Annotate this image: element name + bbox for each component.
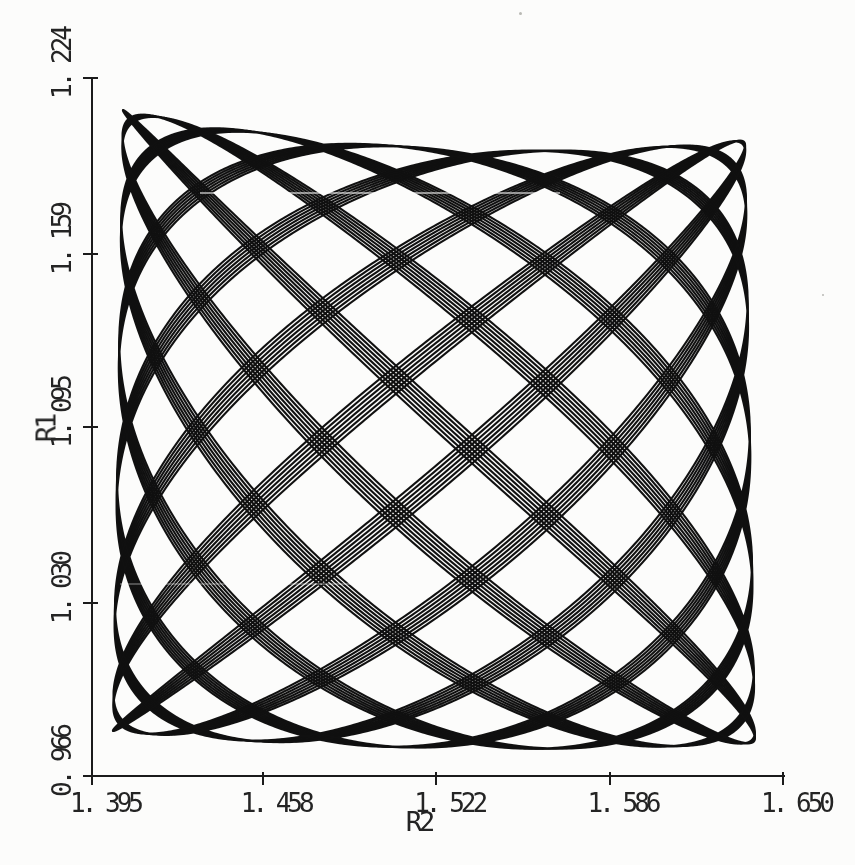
y-axis-title: R1 <box>33 416 60 443</box>
x-tick-label: 1. 395 <box>70 790 140 816</box>
y-tick-label: 1. 224 <box>49 29 75 99</box>
x-tick-label: 1. 586 <box>588 790 658 816</box>
x-axis-title: R2 <box>406 808 433 835</box>
x-tick <box>262 772 264 785</box>
x-tick <box>435 772 437 785</box>
y-tick <box>83 77 98 79</box>
x-tick <box>91 772 93 785</box>
y-tick <box>83 253 98 255</box>
y-tick <box>83 775 98 777</box>
x-tick-label: 1. 650 <box>761 790 831 816</box>
scan-speck <box>822 294 824 296</box>
x-tick <box>609 772 611 785</box>
x-tick <box>782 772 784 785</box>
y-tick-label: 1. 159 <box>49 205 75 275</box>
y-tick-label: 0. 966 <box>49 727 75 797</box>
scan-speck <box>519 12 522 15</box>
trajectory-plot-canvas <box>0 0 855 865</box>
x-tick-label: 1. 458 <box>241 790 311 816</box>
trajectory-figure: 1. 3951. 4581. 5221. 5861. 6500. 9661. 0… <box>0 0 855 865</box>
y-tick <box>83 602 98 604</box>
x-axis-line <box>91 775 785 777</box>
y-tick <box>83 426 98 428</box>
y-tick-label: 1. 030 <box>49 554 75 624</box>
